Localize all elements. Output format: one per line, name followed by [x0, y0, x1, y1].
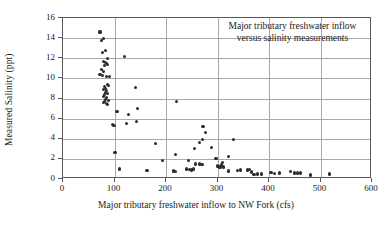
annotation-line-2: versus salinity measurements [210, 32, 375, 44]
y-tick-label: 8 [51, 93, 56, 102]
data-point [252, 173, 255, 176]
data-point [293, 171, 296, 174]
x-tick-mark [217, 178, 218, 182]
data-point [102, 60, 105, 63]
gridline-horizontal [63, 139, 370, 140]
data-point [299, 171, 302, 174]
data-point [112, 124, 115, 127]
data-point [194, 162, 197, 165]
data-point [106, 63, 109, 66]
x-tick-label: 100 [99, 184, 129, 193]
data-point [123, 55, 126, 58]
y-axis-title: Measured Salinity (ppt) [4, 40, 18, 160]
y-tick-label: 0 [51, 174, 56, 183]
data-point [198, 162, 201, 165]
data-point [111, 123, 114, 126]
data-point [250, 170, 253, 173]
data-point [193, 147, 196, 150]
data-point [102, 37, 105, 40]
chart-annotation: Major tributary freshwater inflow versus… [210, 20, 375, 44]
x-tick-mark [62, 178, 63, 182]
data-point [107, 99, 110, 102]
y-tick-label: 12 [46, 53, 55, 62]
data-point [104, 49, 107, 52]
data-point [161, 159, 164, 162]
data-point [105, 89, 108, 92]
data-point [188, 168, 191, 171]
data-point [214, 157, 217, 160]
data-point [210, 146, 213, 149]
data-point [201, 138, 204, 141]
x-tick-label: 600 [356, 184, 386, 193]
data-point [187, 159, 190, 162]
data-point [145, 169, 148, 172]
data-point [200, 163, 203, 166]
data-point [98, 73, 101, 76]
gridline-vertical [166, 18, 167, 177]
data-point [174, 170, 177, 173]
data-point [227, 155, 230, 158]
x-tick-mark [114, 178, 115, 182]
gridline-horizontal [63, 119, 370, 120]
data-point [134, 86, 137, 89]
x-tick-mark [371, 178, 372, 182]
data-point [175, 100, 178, 103]
data-point [106, 92, 109, 95]
data-point [115, 110, 118, 113]
data-point [185, 167, 188, 170]
data-point [103, 85, 106, 88]
x-tick-mark [268, 178, 269, 182]
data-point [218, 166, 221, 169]
data-point [104, 87, 107, 90]
data-point [103, 100, 106, 103]
data-point [216, 164, 219, 167]
data-point [104, 61, 107, 64]
x-tick-label: 400 [253, 184, 283, 193]
data-point [98, 30, 101, 33]
data-point [118, 167, 121, 170]
data-point [174, 153, 177, 156]
data-point [278, 171, 281, 174]
y-tick-label: 6 [51, 113, 56, 122]
gridline-horizontal [63, 58, 370, 59]
data-point [248, 168, 251, 171]
data-point [220, 163, 223, 166]
data-point [154, 142, 157, 145]
y-tick-label: 10 [46, 73, 55, 82]
data-point [172, 169, 175, 172]
data-point [106, 57, 109, 60]
data-point [104, 98, 107, 101]
data-point [125, 122, 128, 125]
data-point [135, 120, 138, 123]
data-point [105, 75, 108, 78]
data-point [105, 102, 108, 105]
data-point [246, 168, 249, 171]
data-point [100, 68, 103, 71]
gridline-horizontal [63, 78, 370, 79]
data-point [201, 125, 204, 128]
x-axis-title: Major tributary freshwater inflow to NW … [0, 200, 392, 210]
data-point [289, 170, 292, 173]
data-point [217, 165, 220, 168]
y-tick-label: 14 [46, 33, 55, 42]
data-point [198, 141, 201, 144]
x-tick-mark [165, 178, 166, 182]
data-point [221, 161, 224, 164]
data-point [101, 74, 104, 77]
data-point [107, 84, 110, 87]
data-point [102, 88, 105, 91]
data-point [108, 75, 111, 78]
data-point [102, 70, 105, 73]
x-tick-label: 500 [305, 184, 335, 193]
data-point [103, 64, 106, 67]
gridline-horizontal [63, 99, 370, 100]
data-point [190, 168, 193, 171]
y-tick-label: 2 [51, 153, 56, 162]
data-point [232, 138, 235, 141]
y-tick-label: 4 [51, 133, 56, 142]
data-point [104, 91, 107, 94]
data-point [127, 113, 130, 116]
data-point [192, 167, 195, 170]
data-point [106, 103, 109, 106]
data-point [269, 171, 272, 174]
